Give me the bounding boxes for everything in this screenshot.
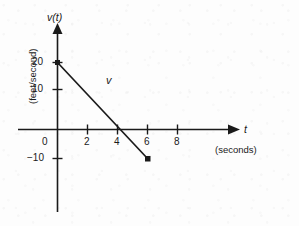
velocity-endpoint-marker xyxy=(145,156,151,162)
x-tick-label-6: 6 xyxy=(144,137,150,147)
velocity-line xyxy=(58,63,148,159)
origin-tick-label: 0 xyxy=(42,137,48,147)
velocity-graph-figure: v(t) (feet/second) 20 10 −10 0 2 4 6 8 t… xyxy=(0,0,299,226)
x-axis xyxy=(18,125,240,135)
plot-area xyxy=(0,0,299,226)
x-axis-name: t xyxy=(244,124,247,135)
x-tick-label-4: 4 xyxy=(114,137,120,147)
curve-label-v: v xyxy=(106,75,112,86)
y-axis-arrowhead xyxy=(53,23,63,34)
y-axis-name: v(t) xyxy=(47,12,62,23)
y-tick-label-10: 10 xyxy=(32,84,43,94)
velocity-start-marker xyxy=(55,60,60,65)
velocity-line-series xyxy=(55,60,151,162)
x-axis-arrowhead xyxy=(228,125,240,135)
y-axis xyxy=(53,23,63,212)
y-tick-label-minus-10: −10 xyxy=(27,153,44,163)
y-tick-label-20: 20 xyxy=(32,57,43,67)
x-tick-label-8: 8 xyxy=(174,137,180,147)
x-tick-label-2: 2 xyxy=(84,137,90,147)
x-axis-unit-label: (seconds) xyxy=(215,145,257,155)
